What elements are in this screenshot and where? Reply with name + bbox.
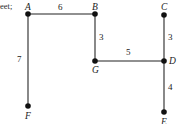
graph-node-F [25, 103, 31, 109]
node-layer [25, 11, 167, 115]
graph-node-D [161, 58, 167, 64]
node-label-G: G [92, 66, 99, 76]
graph-node-E [161, 109, 167, 115]
graph-node-C [161, 12, 167, 18]
node-label-A: A [25, 3, 31, 13]
edge-weight-GD: 5 [126, 48, 131, 57]
graph-diagram: eet; ABCDGFE673534 [0, 0, 180, 124]
edge-weight-AB: 6 [58, 3, 63, 12]
edge-weight-DE: 4 [168, 83, 173, 92]
caption-fragment: eet; [0, 2, 12, 11]
edge-weight-AF: 7 [17, 55, 22, 64]
graph-canvas [0, 0, 180, 124]
node-label-E: E [161, 118, 167, 124]
graph-node-G [92, 58, 98, 64]
edge-weight-CD: 3 [168, 33, 173, 42]
edge-weight-BG: 3 [99, 33, 104, 42]
node-label-C: C [161, 3, 167, 13]
node-label-B: B [92, 3, 98, 13]
node-label-F: F [25, 112, 31, 122]
node-label-D: D [169, 57, 176, 67]
